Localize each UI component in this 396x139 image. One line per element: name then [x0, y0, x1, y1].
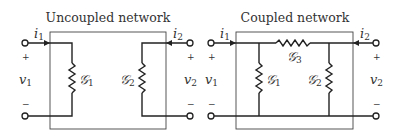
- terminal-left-top: [208, 40, 214, 46]
- label-i1: i1: [220, 26, 230, 42]
- terminal-left-bottom: [208, 113, 214, 119]
- resistor-g1: [69, 63, 75, 93]
- resistor-g2: [139, 63, 145, 93]
- label-i2: i2: [360, 26, 370, 42]
- terminal-right-top: [187, 40, 193, 46]
- plus-right: +: [187, 52, 195, 62]
- terminal-right-bottom: [187, 113, 193, 119]
- plus-left: +: [22, 52, 30, 62]
- label-i2: i2: [173, 26, 183, 42]
- minus-right: −: [187, 99, 195, 109]
- circuit-diagrams: Uncoupled network i1 i2 + + v1 v2 − − 𝒢1…: [0, 0, 396, 139]
- resistor-g2: [326, 63, 332, 93]
- resistor-g3: [276, 40, 310, 46]
- current-arrow-i2: [166, 40, 172, 46]
- plus-left: +: [208, 52, 216, 62]
- minus-left: −: [22, 99, 30, 109]
- wire-top-right: [142, 43, 187, 63]
- uncoupled-network-diagram: Uncoupled network i1 i2 + + v1 v2 − − 𝒢1…: [19, 10, 197, 129]
- minus-left: −: [208, 99, 216, 109]
- wire-bottom-right: [142, 93, 187, 116]
- label-g1: 𝒢1: [79, 72, 94, 88]
- terminal-right-bottom: [373, 113, 379, 119]
- label-v2: v2: [370, 72, 383, 88]
- label-v2: v2: [184, 72, 197, 88]
- label-v1: v1: [205, 72, 218, 88]
- network-box: [50, 32, 166, 129]
- label-v1: v1: [19, 72, 32, 88]
- current-arrow-i1: [44, 40, 50, 46]
- label-i1: i1: [34, 26, 44, 42]
- terminal-left-top: [22, 40, 28, 46]
- terminal-right-top: [373, 40, 379, 46]
- coupled-title: Coupled network: [241, 10, 350, 25]
- plus-right: +: [373, 52, 381, 62]
- resistor-g1: [256, 63, 262, 93]
- label-g2: 𝒢2: [120, 72, 135, 88]
- current-arrow-i1: [230, 40, 236, 46]
- label-g3: 𝒢3: [287, 49, 302, 65]
- minus-right: −: [373, 99, 381, 109]
- label-g1: 𝒢1: [266, 72, 281, 88]
- label-g2: 𝒢2: [307, 72, 322, 88]
- current-arrow-i2: [353, 40, 359, 46]
- coupled-network-diagram: Coupled network i1 i2 + + v1 v2 − − 𝒢1 𝒢…: [205, 10, 383, 129]
- terminal-left-bottom: [22, 113, 28, 119]
- uncoupled-title: Uncoupled network: [46, 10, 171, 25]
- network-box: [236, 32, 353, 129]
